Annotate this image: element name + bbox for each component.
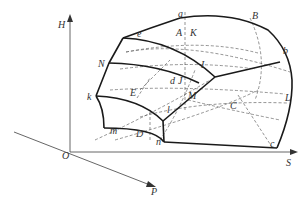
label-n: n [156, 136, 161, 147]
label-c: c [270, 138, 275, 149]
label-J: J [178, 75, 183, 86]
label-p: P [150, 186, 157, 197]
label-L: L [284, 92, 291, 103]
surface-diagram: H S P O a B b e A K N I d J M L C k E m … [0, 0, 308, 206]
label-k: k [87, 91, 92, 102]
label-K: K [189, 27, 198, 38]
label-A: A [175, 27, 183, 38]
p-axis [14, 132, 150, 185]
s-axis-arrow-icon [290, 149, 298, 155]
label-d: d [170, 75, 176, 86]
label-m: m [110, 125, 117, 136]
label-h: H [57, 19, 66, 30]
axes [14, 14, 298, 187]
label-a: a [178, 8, 183, 19]
label-s: S [286, 157, 291, 168]
label-B: B [252, 10, 258, 21]
label-E: E [129, 87, 136, 98]
label-b: b [283, 45, 288, 56]
label-I: I [200, 59, 205, 70]
label-l: l [167, 104, 170, 115]
label-o: O [62, 150, 69, 161]
label-M: M [187, 90, 197, 101]
label-N: N [97, 58, 106, 69]
label-C: C [230, 100, 237, 111]
h-axis-arrow-icon [67, 14, 73, 22]
label-D: D [135, 128, 144, 139]
label-e: e [137, 28, 142, 39]
